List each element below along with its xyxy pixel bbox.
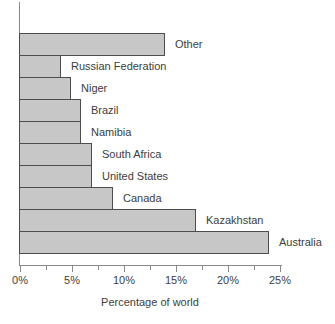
major-tick — [124, 266, 125, 272]
major-tick — [72, 266, 73, 272]
bar-chart-figure: OtherRussian FederationNigerBrazilNamibi… — [0, 0, 335, 324]
bar-row-kazakhstan: Kazakhstan — [19, 209, 263, 232]
bar-row-australia: Australia — [19, 231, 322, 254]
bar-label: Brazil — [91, 99, 119, 122]
bar-united-states — [19, 165, 92, 188]
bar-label: Namibia — [91, 121, 131, 144]
bar-row-south-africa: South Africa — [19, 143, 161, 166]
x-tick-label: 5% — [64, 274, 80, 286]
bar-row-namibia: Namibia — [19, 121, 131, 144]
bar-russian-federation — [19, 55, 61, 78]
minor-tick — [98, 266, 99, 270]
bar-row-niger: Niger — [19, 77, 107, 100]
x-tick-label: 20% — [217, 274, 239, 286]
major-tick — [228, 266, 229, 272]
x-tick-label: 25% — [269, 274, 291, 286]
bar-label: Niger — [81, 77, 107, 100]
minor-tick — [202, 266, 203, 270]
bar-row-canada: Canada — [19, 187, 162, 210]
bar-label: South Africa — [102, 143, 161, 166]
major-tick — [176, 266, 177, 272]
bar-namibia — [19, 121, 81, 144]
x-axis-title: Percentage of world — [101, 296, 199, 308]
bar-row-russian-federation: Russian Federation — [19, 55, 166, 78]
bar-australia — [19, 231, 269, 254]
minor-tick — [46, 266, 47, 270]
major-tick — [20, 266, 21, 272]
minor-tick — [254, 266, 255, 270]
bar-label: United States — [102, 165, 168, 188]
bar-row-united-states: United States — [19, 165, 168, 188]
bar-south-africa — [19, 143, 92, 166]
bar-label: Australia — [279, 231, 322, 254]
bar-niger — [19, 77, 71, 100]
bar-row-other: Other — [19, 33, 203, 56]
minor-tick — [150, 266, 151, 270]
x-tick-label: 0% — [12, 274, 28, 286]
bar-brazil — [19, 99, 81, 122]
x-tick-label: 15% — [165, 274, 187, 286]
bar-label: Canada — [123, 187, 162, 210]
major-tick — [280, 266, 281, 272]
bar-label: Russian Federation — [71, 55, 166, 78]
bar-other — [19, 33, 165, 56]
bar-canada — [19, 187, 113, 210]
x-tick-label: 10% — [113, 274, 135, 286]
bar-kazakhstan — [19, 209, 196, 232]
bar-label: Kazakhstan — [206, 209, 263, 232]
bar-label: Other — [175, 33, 203, 56]
bar-row-brazil: Brazil — [19, 99, 119, 122]
